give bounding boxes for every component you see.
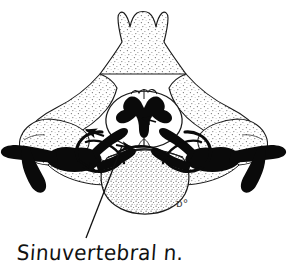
- illustration-figure: Cervical vertebra axial cross-section sh…: [0, 0, 287, 278]
- artist-signature: ᴅ°: [176, 197, 188, 210]
- vertebra-cross-section-diagram: ᴅ°: [0, 0, 287, 278]
